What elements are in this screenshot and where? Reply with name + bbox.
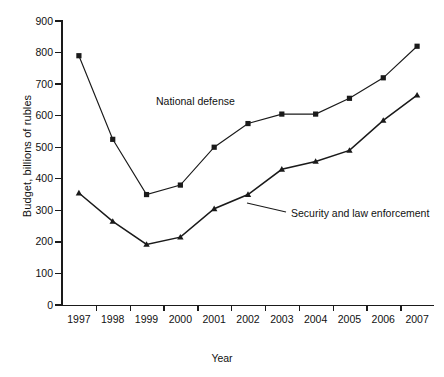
series-line-national-defense xyxy=(79,46,417,194)
series-markers-security-and-law-enforcement xyxy=(76,92,421,247)
data-point xyxy=(212,145,217,150)
data-point xyxy=(414,92,420,98)
series-markers-national-defense xyxy=(76,44,419,198)
page-caption-fragment xyxy=(0,368,444,377)
series-layer xyxy=(0,0,444,377)
data-point xyxy=(279,111,284,116)
data-point xyxy=(245,121,250,126)
security-label-leader-line xyxy=(247,203,286,212)
line-chart-figure: Budget, billions of rubles Year 01002003… xyxy=(0,0,444,377)
data-point xyxy=(110,137,115,142)
series-label-security-and-law-enforcement: Security and law enforcement xyxy=(291,207,429,219)
series-label-national-defense: National defense xyxy=(156,95,235,107)
data-point xyxy=(381,75,386,80)
series-line-security-and-law-enforcement xyxy=(79,95,417,244)
data-point xyxy=(76,190,82,196)
data-point xyxy=(144,192,149,197)
data-point xyxy=(414,44,419,49)
data-point xyxy=(347,96,352,101)
data-point xyxy=(178,182,183,187)
data-point xyxy=(76,53,81,58)
data-point xyxy=(313,111,318,116)
